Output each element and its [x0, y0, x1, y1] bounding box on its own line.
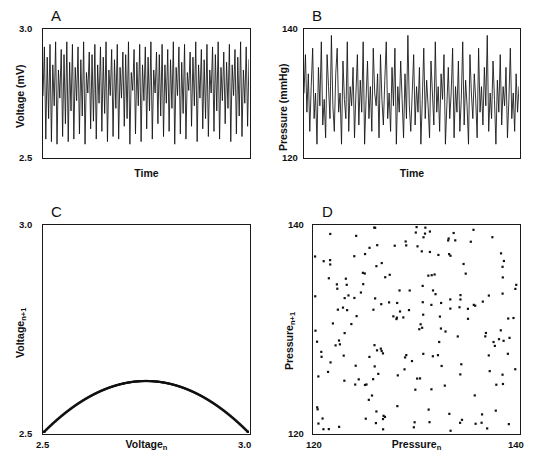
panel-d-ytick-top: 140 — [288, 220, 304, 230]
panel-d-x-axis-title-main: Pressure — [392, 438, 437, 450]
panel-c-y-axis-title: Voltagen+1 — [15, 308, 26, 358]
panel-b-trace-svg — [304, 29, 519, 157]
panel-a-trace-svg — [43, 29, 249, 157]
panel-c-scatter-svg — [43, 225, 249, 433]
panel-a-letter: A — [51, 8, 61, 23]
panel-b-ytick-bottom: 120 — [282, 153, 298, 163]
panel-d-y-axis-title: Pressuren+1 — [284, 312, 295, 370]
panel-a-ytick-bottom: 2.5 — [19, 153, 32, 163]
panel-d-y-axis-title-main: Pressure — [283, 325, 295, 370]
panel-a-axes — [42, 28, 251, 159]
panel-d-x-axis-title: Pressuren — [312, 439, 521, 450]
panel-c-x-axis-title-main: Voltage — [126, 438, 163, 450]
panel-b-ytick-top: 140 — [282, 24, 298, 34]
panel-d-axes — [312, 224, 521, 435]
panel-b-y-axis-title: Pressure (mmHg) — [278, 63, 289, 151]
panel-b-axes — [303, 28, 521, 159]
panel-c-x-axis-title-sub: n — [163, 443, 168, 452]
panel-c-y-axis-title-main: Voltage — [14, 321, 26, 358]
panel-a-ytick-top: 3.0 — [19, 24, 32, 34]
panel-d-x-axis-title-sub: n — [437, 443, 442, 452]
panel-a-y-axis-title: Voltage (mV) — [15, 65, 26, 128]
panel-c-ytick-top: 3.0 — [19, 220, 32, 230]
panel-c-ytick-bottom: 2.5 — [19, 429, 32, 439]
panel-c-y-axis-title-sub: n+1 — [19, 308, 28, 321]
panel-b-letter: B — [312, 8, 322, 23]
panel-d-y-axis-title-sub: n+1 — [288, 312, 297, 325]
panel-c-letter: C — [51, 204, 62, 219]
panel-b-x-axis-title: Time — [303, 168, 521, 179]
panel-d-letter: D — [322, 204, 333, 219]
four-panel-figure: A 3.0 2.5 Voltage (mV) Time B 140 120 Pr… — [0, 0, 537, 461]
panel-a-x-axis-title: Time — [42, 168, 251, 179]
panel-d-ytick-bottom: 120 — [288, 429, 304, 439]
panel-d-scatter-svg — [313, 225, 519, 433]
panel-c-axes — [42, 224, 251, 435]
panel-c-x-axis-title: Voltagen — [42, 439, 251, 450]
